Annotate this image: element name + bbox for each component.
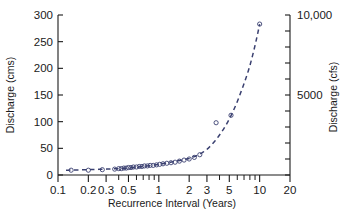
x-tick-label: 1 bbox=[156, 184, 162, 196]
discharge-recurrence-chart: 050100150200250300 0.10.20.30.512351020 … bbox=[0, 0, 349, 224]
y-axis-left-title: Discharge (cms) bbox=[4, 57, 16, 133]
y-tick-label-left: 300 bbox=[34, 9, 53, 21]
x-tick-label: 3 bbox=[204, 184, 210, 196]
x-axis-bottom-ticks: 0.10.20.30.512351020 bbox=[50, 175, 296, 196]
y-tick-label-left: 150 bbox=[34, 89, 53, 101]
y-axis-right-title: Discharge (cfs) bbox=[327, 62, 339, 133]
y-tick-label-left: 250 bbox=[34, 36, 53, 48]
x-tick-label: 5 bbox=[226, 184, 232, 196]
y-tick-label-left: 0 bbox=[47, 169, 53, 181]
data-point bbox=[86, 168, 90, 172]
x-tick-label: 20 bbox=[284, 184, 297, 196]
data-point bbox=[214, 121, 218, 125]
y-tick-label-left: 100 bbox=[34, 116, 53, 128]
x-tick-label: 0.5 bbox=[120, 184, 136, 196]
data-point bbox=[198, 153, 202, 157]
x-tick-label: 0.1 bbox=[50, 184, 66, 196]
y-tick-label-left: 50 bbox=[40, 142, 53, 154]
figure-container: 050100150200250300 0.10.20.30.512351020 … bbox=[0, 0, 349, 224]
data-points-layer bbox=[69, 22, 262, 172]
plot-axes bbox=[58, 15, 290, 175]
x-tick-label: 0.3 bbox=[98, 184, 114, 196]
data-point bbox=[182, 158, 186, 162]
x-tick-label: 2 bbox=[186, 184, 192, 196]
y-tick-label-left: 200 bbox=[34, 62, 53, 74]
fitted-curve bbox=[66, 24, 260, 170]
x-axis-title: Recurrence Interval (Years) bbox=[108, 197, 236, 209]
y-axis-right-ticks: 10,0005000 bbox=[285, 9, 332, 175]
x-tick-label: 0.2 bbox=[80, 184, 96, 196]
y-tick-label-right: 10,000 bbox=[297, 9, 332, 21]
x-tick-label: 10 bbox=[253, 184, 266, 196]
y-tick-label-right: 5000 bbox=[297, 89, 323, 101]
fitted-curve-layer bbox=[66, 24, 260, 170]
y-axis-left-ticks: 050100150200250300 bbox=[34, 9, 63, 181]
